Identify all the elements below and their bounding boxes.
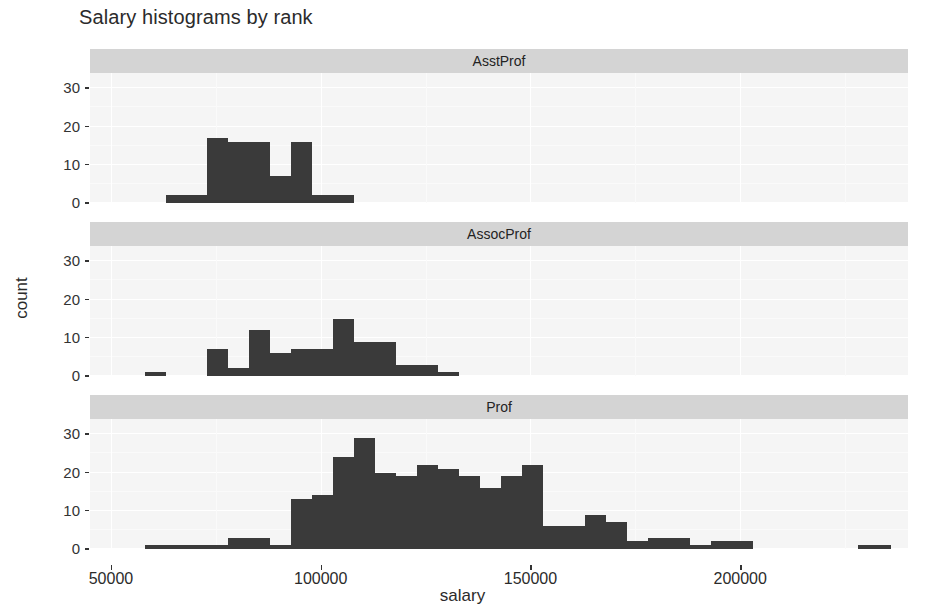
- grid-line-vertical-minor: [216, 419, 217, 549]
- histogram-bar: [333, 457, 354, 549]
- grid-line-vertical: [111, 73, 112, 203]
- grid-line-vertical: [530, 73, 531, 203]
- y-axis-tick-mark: [85, 299, 89, 301]
- y-axis-tick-label: 10: [32, 157, 80, 172]
- histogram-bar: [333, 319, 354, 376]
- histogram-bar: [207, 349, 228, 376]
- grid-line-vertical-minor: [635, 73, 636, 203]
- histogram-bar: [228, 368, 249, 376]
- y-axis-tick-label: 0: [32, 541, 80, 556]
- facet-strip: AssocProf: [90, 222, 908, 246]
- facet-strip-label: Prof: [486, 400, 512, 414]
- histogram-bar: [270, 545, 291, 549]
- histogram-bar: [312, 195, 333, 203]
- facet-strip: Prof: [90, 395, 908, 419]
- grid-line-vertical: [740, 73, 741, 203]
- grid-line-vertical: [530, 246, 531, 376]
- histogram-bar: [522, 465, 543, 549]
- y-axis-tick-mark: [85, 260, 89, 262]
- plot-area: [90, 73, 908, 203]
- grid-line-horizontal: [90, 126, 908, 127]
- histogram-bar: [249, 330, 270, 376]
- x-axis-tick-label: 200000: [714, 570, 767, 588]
- histogram-bar: [438, 469, 459, 549]
- grid-line-horizontal-minor: [90, 318, 908, 319]
- histogram-bar: [270, 176, 291, 203]
- histogram-bar: [501, 476, 522, 549]
- page-title: Salary histograms by rank: [79, 6, 313, 29]
- y-axis-tick-mark: [85, 548, 89, 550]
- x-axis-tick-label: 50000: [89, 570, 134, 588]
- histogram-bar: [396, 365, 417, 376]
- histogram-bar: [711, 541, 753, 549]
- histogram-bar: [438, 372, 459, 376]
- histogram-bar: [375, 473, 396, 549]
- histogram-bar: [207, 138, 228, 203]
- facet-panel: AsstProf: [90, 49, 908, 203]
- histogram-bar: [858, 545, 892, 549]
- facet-panel: Prof: [90, 395, 908, 549]
- y-axis-tick-label: 0: [32, 195, 80, 210]
- y-axis-tick-mark: [85, 164, 89, 166]
- facet-panel: AssocProf: [90, 222, 908, 376]
- y-axis-tick-label: 10: [32, 503, 80, 518]
- y-axis-tick-mark: [85, 510, 89, 512]
- grid-line-horizontal-minor: [90, 106, 908, 107]
- histogram-bar: [585, 515, 606, 549]
- histogram-bar: [291, 499, 312, 549]
- plot-area: [90, 246, 908, 376]
- histogram-bar: [417, 365, 438, 376]
- grid-line-vertical-minor: [635, 419, 636, 549]
- y-axis-tick-label: 0: [32, 368, 80, 383]
- histogram-bar: [690, 545, 711, 549]
- grid-line-horizontal-minor: [90, 452, 908, 453]
- histogram-bar: [291, 349, 312, 376]
- grid-line-vertical-minor: [845, 246, 846, 376]
- histogram-bar: [648, 538, 690, 549]
- y-axis-tick-mark: [85, 375, 89, 377]
- y-axis-tick-mark: [85, 126, 89, 128]
- y-axis-tick-label: 20: [32, 465, 80, 480]
- y-axis-tick-label: 30: [32, 426, 80, 441]
- grid-line-horizontal: [90, 87, 908, 88]
- histogram-bar: [249, 538, 270, 549]
- grid-line-vertical: [740, 419, 741, 549]
- x-axis-tick-label: 100000: [294, 570, 347, 588]
- histogram-bar: [354, 342, 375, 376]
- grid-line-vertical: [111, 419, 112, 549]
- x-axis-title: salary: [0, 586, 925, 606]
- grid-line-vertical-minor: [426, 246, 427, 376]
- histogram-bar: [375, 342, 396, 376]
- plot-area: [90, 419, 908, 549]
- histogram-bar: [564, 526, 585, 549]
- histogram-bar: [228, 538, 249, 549]
- histogram-bar: [228, 142, 249, 203]
- histogram-bar: [606, 522, 627, 549]
- y-axis-tick-label: 20: [32, 119, 80, 134]
- histogram-bar: [145, 372, 166, 376]
- histogram-bar: [627, 541, 648, 549]
- histogram-bar: [166, 545, 187, 549]
- histogram-bar: [166, 195, 187, 203]
- histogram-bar: [186, 545, 207, 549]
- grid-line-horizontal: [90, 433, 908, 434]
- grid-line-horizontal: [90, 260, 908, 261]
- histogram-bar: [207, 545, 228, 549]
- histogram-bar: [312, 495, 333, 549]
- grid-line-horizontal: [90, 299, 908, 300]
- grid-line-vertical-minor: [845, 73, 846, 203]
- y-axis-tick-mark: [85, 337, 89, 339]
- histogram-bar: [249, 142, 270, 203]
- histogram-bar: [354, 438, 375, 549]
- grid-line-vertical: [111, 246, 112, 376]
- grid-line-vertical: [321, 73, 322, 203]
- grid-line-horizontal: [90, 337, 908, 338]
- grid-line-vertical-minor: [426, 73, 427, 203]
- histogram-bar: [186, 195, 207, 203]
- y-axis-title: count: [12, 258, 32, 338]
- y-axis-tick-label: 20: [32, 292, 80, 307]
- histogram-bar: [333, 195, 354, 203]
- histogram-bar: [543, 526, 564, 549]
- facet-strip-label: AsstProf: [473, 54, 526, 68]
- histogram-bar: [396, 476, 417, 549]
